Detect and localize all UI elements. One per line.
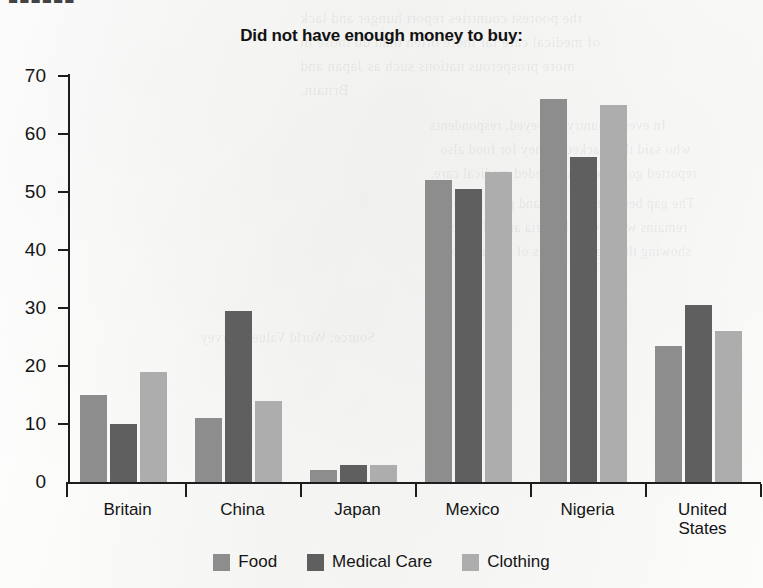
chart-title: Did not have enough money to buy:	[0, 26, 763, 46]
bar-mexico-clothing	[485, 172, 512, 482]
y-axis-tick	[58, 365, 68, 367]
plot-area	[68, 76, 761, 482]
x-axis-separator-tick	[530, 484, 532, 497]
y-axis-tick	[58, 191, 68, 193]
bar-britain-food	[80, 395, 107, 482]
bar-united-states-clothing	[715, 331, 742, 482]
bar-japan-medical-care	[340, 465, 367, 482]
bar-nigeria-food	[540, 99, 567, 482]
legend-label: Medical Care	[332, 552, 432, 572]
x-axis-label-japan: Japan	[300, 500, 415, 519]
y-axis-tick-label: 60	[0, 123, 46, 145]
bar-mexico-medical-care	[455, 189, 482, 482]
legend-swatch-icon	[462, 554, 479, 571]
y-axis-tick	[58, 133, 68, 135]
y-axis-tick-label: 20	[0, 355, 46, 377]
bar-chart: Did not have enough money to buy: 706050…	[0, 0, 763, 588]
bar-united-states-food	[655, 346, 682, 482]
y-axis-tick-label: 40	[0, 239, 46, 261]
y-axis-tick-label: 50	[0, 181, 46, 203]
y-axis-tick-label: 0	[0, 471, 46, 493]
legend-swatch-icon	[307, 554, 324, 571]
bar-nigeria-medical-care	[570, 157, 597, 482]
bar-nigeria-clothing	[600, 105, 627, 482]
x-axis-end-tick	[760, 484, 762, 497]
bar-britain-medical-care	[110, 424, 137, 482]
x-axis-label-nigeria: Nigeria	[530, 500, 645, 519]
chart-legend: FoodMedical CareClothing	[0, 552, 763, 572]
legend-item-clothing: Clothing	[462, 552, 549, 572]
x-axis-separator-tick	[300, 484, 302, 497]
x-axis-separator-tick	[415, 484, 417, 497]
y-axis-tick	[58, 307, 68, 309]
x-axis-label-china: China	[185, 500, 300, 519]
bar-united-states-medical-care	[685, 305, 712, 482]
y-axis-line	[68, 74, 70, 484]
bar-china-food	[195, 418, 222, 482]
y-axis-tick-label: 10	[0, 413, 46, 435]
x-axis-label-britain: Britain	[70, 500, 185, 519]
bar-britain-clothing	[140, 372, 167, 482]
bar-mexico-food	[425, 180, 452, 482]
legend-item-medical-care: Medical Care	[307, 552, 432, 572]
y-axis-tick-label: 70	[0, 65, 46, 87]
y-axis-tick-label: 30	[0, 297, 46, 319]
x-axis-end-tick	[66, 484, 68, 497]
bar-japan-food	[310, 470, 337, 482]
legend-item-food: Food	[213, 552, 277, 572]
y-axis-tick	[58, 75, 68, 77]
bar-china-medical-care	[225, 311, 252, 482]
y-axis-tick	[58, 423, 68, 425]
y-axis-tick	[58, 249, 68, 251]
x-axis-label-mexico: Mexico	[415, 500, 530, 519]
x-axis-label-united-states: UnitedStates	[645, 500, 760, 538]
x-axis-line	[66, 482, 761, 484]
legend-label: Clothing	[487, 552, 549, 572]
bar-china-clothing	[255, 401, 282, 482]
x-axis-separator-tick	[185, 484, 187, 497]
bar-japan-clothing	[370, 465, 397, 482]
legend-swatch-icon	[213, 554, 230, 571]
legend-label: Food	[238, 552, 277, 572]
x-axis-separator-tick	[645, 484, 647, 497]
